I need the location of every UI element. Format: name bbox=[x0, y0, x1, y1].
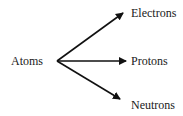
arrow-to-electrons bbox=[57, 13, 123, 61]
arrow-to-neutrons bbox=[57, 61, 120, 99]
root-node-atoms: Atoms bbox=[11, 54, 43, 68]
node-neutrons: Neutrons bbox=[131, 98, 175, 112]
node-electrons: Electrons bbox=[131, 6, 176, 20]
node-protons: Protons bbox=[131, 54, 168, 68]
